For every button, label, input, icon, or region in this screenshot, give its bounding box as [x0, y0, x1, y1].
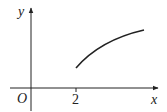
- origin-label: O: [17, 91, 27, 106]
- graph-canvas: y x O 2: [0, 0, 167, 112]
- function-curve: [76, 30, 144, 68]
- y-axis-label: y: [16, 4, 25, 19]
- x-axis-label: x: [150, 92, 158, 107]
- x-tick-label-2: 2: [72, 92, 79, 107]
